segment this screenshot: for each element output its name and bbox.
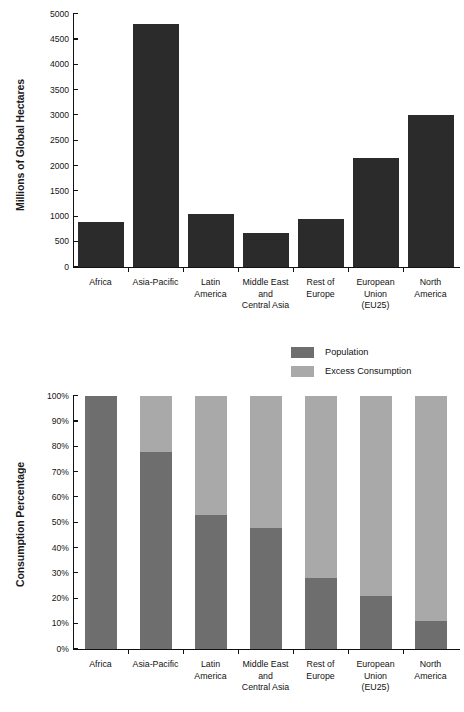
bar-slot: [305, 396, 337, 649]
x-axis-tick-mark: [293, 267, 294, 272]
bar-segment-population[interactable]: [195, 515, 227, 649]
y-axis-tick-label: 60%: [52, 493, 73, 502]
bar[interactable]: [298, 219, 344, 267]
bar-segment-population[interactable]: [305, 578, 337, 649]
y-axis-tick-label: 2500: [50, 136, 73, 145]
consumption-percentage-chart: Consumption Percentage 0%10%20%30%40%50%…: [0, 382, 464, 712]
x-axis-tick-mark: [348, 649, 349, 654]
y-axis-tick-label: 1000: [50, 212, 73, 221]
y-axis-tick-label: 5000: [50, 10, 73, 19]
x-axis-label: Middle EastandCentral Asia: [238, 659, 293, 694]
x-axis-line-bottom: [73, 649, 460, 650]
y-axis-tick-mark: [73, 496, 78, 497]
bar[interactable]: [305, 396, 337, 649]
y-axis-tick-mark: [73, 190, 78, 191]
x-axis-label: EuropeanUnion(EU25): [348, 659, 403, 694]
y-axis-tick-mark: [73, 648, 78, 649]
bar[interactable]: [360, 396, 392, 649]
y-axis-tick-mark: [73, 38, 78, 39]
y-axis-tick-label: 4000: [50, 60, 73, 69]
y-axis-tick-mark: [73, 140, 78, 141]
y-axis-tick-mark: [73, 114, 78, 115]
bar-segment-excess-consumption[interactable]: [140, 396, 172, 452]
bar-segment-excess-consumption[interactable]: [305, 396, 337, 578]
y-axis-tick-mark: [73, 446, 78, 447]
chart-legend: PopulationExcess Consumption: [291, 344, 411, 382]
y-axis-tick-mark: [73, 89, 78, 90]
y-axis-tick-mark: [73, 471, 78, 472]
bar-slot: [133, 14, 179, 267]
plot-area-top: 0500100015002000250030003500400045005000: [73, 14, 458, 267]
bar-segment-excess-consumption[interactable]: [250, 396, 282, 528]
y-axis-tick-label: 3500: [50, 86, 73, 95]
y-axis-tick-label: 0: [64, 263, 73, 272]
x-axis-tick-mark: [403, 649, 404, 654]
bar-slot: [188, 14, 234, 267]
bar[interactable]: [140, 396, 172, 649]
bar-slot: [250, 396, 282, 649]
legend-item-excess[interactable]: Excess Consumption: [291, 363, 411, 379]
x-axis-label: EuropeanUnion(EU25): [348, 277, 403, 312]
bar-slot: [415, 396, 447, 649]
bar-slot: [360, 396, 392, 649]
y-axis-tick-mark: [73, 266, 78, 267]
x-axis-tick-mark: [348, 267, 349, 272]
bar-slot: [243, 14, 289, 267]
x-axis-label: Asia-Pacific: [128, 277, 183, 289]
bar-slot: [408, 14, 454, 267]
bar[interactable]: [415, 396, 447, 649]
bar[interactable]: [188, 214, 234, 267]
bar[interactable]: [85, 396, 117, 649]
y-axis-tick-label: 500: [55, 237, 73, 246]
bar-segment-population[interactable]: [85, 396, 117, 649]
bar[interactable]: [243, 233, 289, 267]
bar-slot: [353, 14, 399, 267]
y-axis-tick-label: 2000: [50, 162, 73, 171]
y-axis-tick-label: 40%: [52, 544, 73, 553]
y-axis-tick-mark: [73, 522, 78, 523]
legend-block: PopulationExcess Consumption: [0, 344, 464, 380]
plot-area-bottom: 0%10%20%30%40%50%60%70%80%90%100%: [73, 396, 458, 649]
y-axis-tick-label: 20%: [52, 594, 73, 603]
x-axis-label: NorthAmerica: [403, 659, 458, 682]
y-axis-tick-mark: [73, 64, 78, 65]
y-axis-tick-label: 1500: [50, 187, 73, 196]
bar[interactable]: [408, 115, 454, 267]
bar-segment-population[interactable]: [415, 621, 447, 649]
y-axis-tick-mark: [73, 13, 78, 14]
legend-item-population[interactable]: Population: [291, 344, 411, 360]
y-axis-tick-label: 30%: [52, 569, 73, 578]
y-axis-tick-mark: [73, 216, 78, 217]
y-axis-title-top: Millions of Global Hectares: [14, 60, 26, 230]
bar[interactable]: [195, 396, 227, 649]
bar-segment-excess-consumption[interactable]: [360, 396, 392, 596]
x-axis-tick-mark: [238, 267, 239, 272]
x-axis-label: NorthAmerica: [403, 277, 458, 300]
bar-segment-excess-consumption[interactable]: [415, 396, 447, 621]
x-axis-label: Middle EastandCentral Asia: [238, 277, 293, 312]
bar[interactable]: [353, 158, 399, 267]
x-axis-tick-mark: [238, 649, 239, 654]
bar[interactable]: [78, 222, 124, 267]
y-axis-tick-label: 90%: [52, 417, 73, 426]
legend-swatch-excess: [291, 366, 314, 377]
bar-slot: [85, 396, 117, 649]
y-axis-tick-label: 0%: [57, 645, 73, 654]
bar-segment-population[interactable]: [360, 596, 392, 649]
bars-container-top: [73, 14, 458, 267]
x-axis-label: LatinAmerica: [183, 659, 238, 682]
bar-segment-population[interactable]: [250, 528, 282, 649]
x-axis-label: Rest ofEurope: [293, 277, 348, 300]
y-axis-tick-mark: [73, 420, 78, 421]
x-axis-tick-mark: [128, 267, 129, 272]
bar[interactable]: [250, 396, 282, 649]
bar-slot: [298, 14, 344, 267]
bar-segment-population[interactable]: [140, 452, 172, 649]
y-axis-tick-label: 70%: [52, 468, 73, 477]
legend-label-excess: Excess Consumption: [325, 366, 411, 376]
bar-segment-excess-consumption[interactable]: [195, 396, 227, 515]
y-axis-tick-mark: [73, 241, 78, 242]
bar[interactable]: [133, 24, 179, 267]
y-axis-tick-mark: [73, 598, 78, 599]
x-axis-tick-mark: [183, 649, 184, 654]
